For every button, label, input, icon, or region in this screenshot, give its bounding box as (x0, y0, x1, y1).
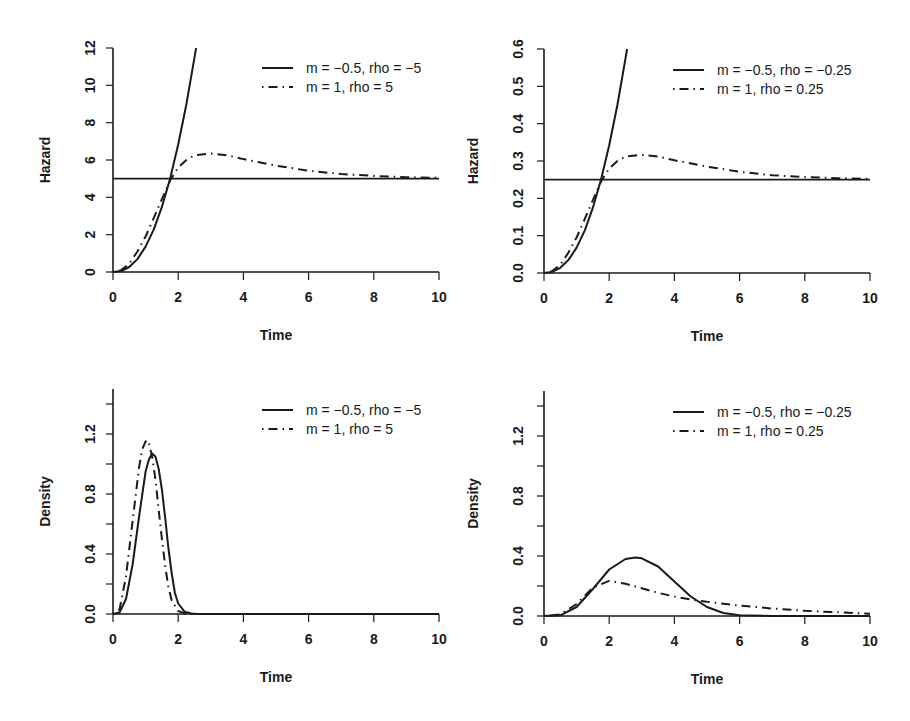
y-axis-title: Density (465, 478, 481, 529)
y-tick-label: 2 (82, 231, 98, 239)
x-tick-label: 8 (370, 631, 378, 647)
y-tick-label: 6 (82, 156, 98, 164)
y-axis-title: Density (37, 476, 53, 527)
x-tick-label: 4 (671, 290, 679, 306)
legend-label: m = 1, rho = 0.25 (717, 81, 824, 97)
y-axis-title: Hazard (37, 137, 53, 184)
y-tick-label: 0.4 (510, 114, 526, 134)
hazard-plot-left: 0246810120246810TimeHazardm = −0.5, rho … (37, 40, 447, 343)
series-line-dashdot (113, 154, 439, 273)
legend-label: m = 1, rho = 5 (306, 79, 393, 95)
x-tick-label: 6 (305, 631, 313, 647)
series-line-solid (113, 48, 196, 272)
y-tick-label: 8 (82, 119, 98, 127)
y-tick-label: 0.2 (510, 188, 526, 208)
x-tick-label: 6 (736, 633, 744, 649)
x-tick-label: 0 (540, 290, 548, 306)
y-axis-title: Hazard (465, 138, 481, 185)
x-tick-label: 10 (862, 290, 878, 306)
legend-label: m = −0.5, rho = −5 (306, 402, 421, 418)
x-tick-label: 0 (540, 633, 548, 649)
x-tick-label: 4 (240, 631, 248, 647)
y-tick-label: 12 (82, 40, 98, 56)
x-axis-title: Time (260, 669, 293, 685)
y-tick-label: 0.0 (510, 263, 526, 283)
x-tick-label: 10 (431, 631, 447, 647)
y-tick-label: 1.2 (82, 424, 98, 444)
legend-label: m = −0.5, rho = −0.25 (717, 404, 852, 420)
x-axis-title: Time (691, 671, 724, 687)
density-plot-right: 0.00.40.81.20246810TimeDensitym = −0.5, … (465, 391, 878, 687)
legend: m = −0.5, rho = −5m = 1, rho = 5 (262, 60, 421, 95)
legend: m = −0.5, rho = −5m = 1, rho = 5 (262, 402, 421, 437)
x-tick-label: 2 (174, 289, 182, 305)
legend-label: m = 1, rho = 0.25 (717, 423, 824, 439)
y-tick-label: 0.0 (82, 604, 98, 624)
figure: 0246810120246810TimeHazardm = −0.5, rho … (0, 0, 910, 721)
series-line-solid (544, 558, 870, 617)
x-tick-label: 0 (109, 631, 117, 647)
x-axis-title: Time (260, 327, 293, 343)
x-tick-label: 2 (605, 290, 613, 306)
hazard-plot-right: 0.00.10.20.30.40.50.60246810TimeHazardm … (465, 39, 878, 344)
y-tick-label: 0 (82, 268, 98, 276)
x-tick-label: 6 (736, 290, 744, 306)
y-tick-label: 0.4 (510, 546, 526, 566)
x-tick-label: 8 (370, 289, 378, 305)
x-tick-label: 10 (431, 289, 447, 305)
y-tick-label: 4 (82, 193, 98, 201)
y-tick-label: 0.8 (82, 484, 98, 504)
series-line-solid (544, 49, 627, 273)
y-tick-label: 0.8 (510, 486, 526, 506)
series-line-dashdot (113, 440, 439, 614)
y-tick-label: 10 (82, 77, 98, 93)
x-tick-label: 4 (240, 289, 248, 305)
y-tick-label: 0.6 (510, 39, 526, 59)
series-line-dashdot (544, 581, 870, 616)
legend-label: m = 1, rho = 5 (306, 421, 393, 437)
x-tick-label: 2 (174, 631, 182, 647)
y-tick-label: 0.1 (510, 226, 526, 246)
x-tick-label: 0 (109, 289, 117, 305)
legend-label: m = −0.5, rho = −0.25 (717, 62, 852, 78)
y-tick-label: 0.5 (510, 76, 526, 96)
y-tick-label: 1.2 (510, 426, 526, 446)
legend-label: m = −0.5, rho = −5 (306, 60, 421, 76)
x-axis-title: Time (691, 328, 724, 344)
y-tick-label: 0.4 (82, 544, 98, 564)
x-tick-label: 2 (605, 633, 613, 649)
series-line-dashdot (544, 155, 870, 273)
legend: m = −0.5, rho = −0.25m = 1, rho = 0.25 (673, 404, 852, 439)
x-tick-label: 8 (801, 290, 809, 306)
y-tick-label: 0.3 (510, 151, 526, 171)
y-tick-label: 0.0 (510, 606, 526, 626)
x-tick-label: 6 (305, 289, 313, 305)
x-tick-label: 10 (862, 633, 878, 649)
legend: m = −0.5, rho = −0.25m = 1, rho = 0.25 (673, 62, 852, 97)
density-plot-left: 0.00.40.81.20246810TimeDensitym = −0.5, … (37, 389, 447, 685)
x-tick-label: 8 (801, 633, 809, 649)
x-tick-label: 4 (671, 633, 679, 649)
